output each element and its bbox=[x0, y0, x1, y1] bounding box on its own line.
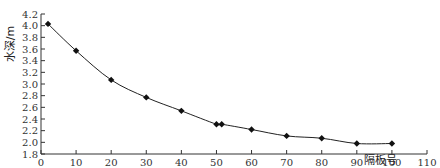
x-tick-label: 80 bbox=[315, 157, 328, 168]
x-tick-label: 90 bbox=[350, 157, 363, 168]
y-tick-label: 4.2 bbox=[22, 9, 38, 20]
diamond-marker bbox=[143, 94, 149, 100]
y-axis-title: 水深/m bbox=[4, 26, 17, 62]
water-depth-chart: 1.82.02.22.42.62.83.03.23.43.63.84.04.2 … bbox=[0, 0, 440, 168]
y-tick-label: 3.4 bbox=[22, 55, 38, 66]
x-tick-label: 20 bbox=[105, 157, 118, 168]
y-tick-label: 2.8 bbox=[22, 90, 38, 101]
y-tick-label: 2.2 bbox=[22, 125, 38, 136]
diamond-marker bbox=[108, 77, 114, 83]
x-tick-label: 110 bbox=[417, 157, 436, 168]
x-tick-label: 40 bbox=[175, 157, 188, 168]
data-markers bbox=[45, 21, 395, 147]
diamond-marker bbox=[319, 135, 325, 141]
x-tick-label: 50 bbox=[210, 157, 223, 168]
x-tick-label: 0 bbox=[38, 157, 44, 168]
y-axis: 1.82.02.22.42.62.83.03.23.43.63.84.04.2 bbox=[22, 9, 45, 160]
x-tick-label: 10 bbox=[70, 157, 83, 168]
diamond-marker bbox=[283, 133, 289, 139]
y-tick-label: 2.4 bbox=[22, 114, 38, 125]
diamond-marker bbox=[178, 108, 184, 114]
y-tick-label: 3.2 bbox=[22, 67, 38, 78]
diamond-marker bbox=[354, 140, 360, 146]
diamond-marker bbox=[248, 126, 254, 132]
diamond-marker bbox=[219, 121, 225, 127]
y-tick-label: 3.0 bbox=[22, 79, 38, 90]
x-tick-label: 60 bbox=[245, 157, 258, 168]
x-tick-label: 70 bbox=[280, 157, 293, 168]
y-tick-label: 3.8 bbox=[22, 32, 38, 43]
y-tick-label: 1.8 bbox=[22, 149, 38, 160]
x-axis-title: 隔板号 bbox=[364, 153, 397, 167]
diamond-marker bbox=[389, 140, 395, 146]
x-tick-label: 30 bbox=[140, 157, 153, 168]
y-tick-label: 3.6 bbox=[22, 44, 38, 55]
y-tick-label: 2.0 bbox=[22, 137, 38, 148]
y-tick-label: 2.6 bbox=[22, 102, 38, 113]
y-tick-label: 4.0 bbox=[22, 20, 38, 31]
depth-curve bbox=[48, 24, 392, 144]
